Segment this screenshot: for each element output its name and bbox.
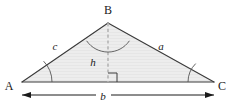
vertex-label-b: B — [104, 3, 112, 17]
altitude-label-h: h — [90, 56, 96, 68]
b-dimension-arrowhead-left — [22, 92, 31, 98]
side-label-a: a — [158, 40, 164, 52]
vertex-label-a: A — [5, 79, 14, 93]
side-label-b: b — [100, 90, 106, 102]
b-dimension-arrowhead-right — [205, 92, 214, 98]
vertex-label-c: C — [218, 79, 226, 93]
side-label-c: c — [53, 40, 58, 52]
triangle-figure: A B C c a b h — [0, 0, 230, 105]
triangle-diagram-canvas: A B C c a b h — [0, 0, 230, 105]
